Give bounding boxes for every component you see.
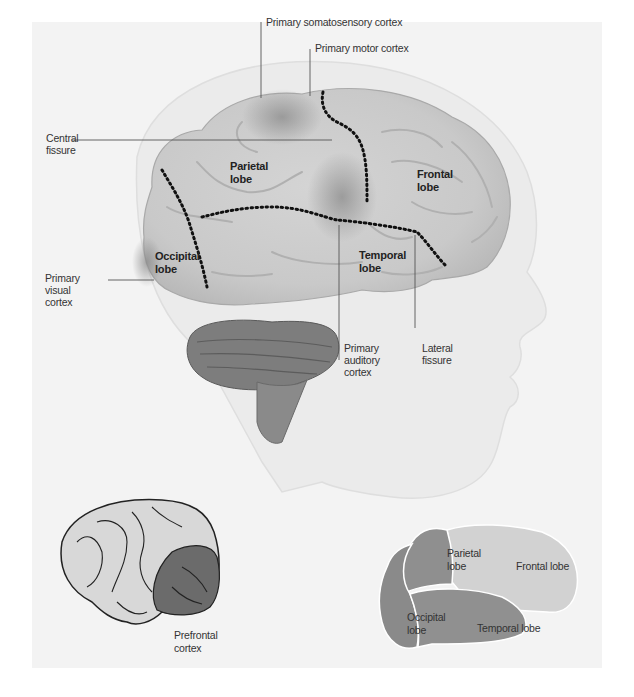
label-occipital-lobe: Occipital lobe [155, 250, 200, 276]
label-central-fissure: Central fissure [46, 132, 78, 156]
inset-parietal-lobe [400, 528, 453, 592]
label-parietal-lobe: Parietal lobe [230, 160, 268, 186]
inset-label-temporal: Temporal lobe [477, 622, 540, 635]
inset-label-occipital: Occipital lobe [407, 611, 445, 637]
label-primary-visual-cortex: Primary visual cortex [45, 272, 80, 308]
label-primary-somatosensory-cortex: Primary somatosensory cortex [266, 16, 402, 28]
label-prefrontal-cortex: Prefrontal cortex [174, 629, 218, 655]
label-frontal-lobe: Frontal lobe [417, 168, 453, 194]
prefrontal-inset-brain [61, 500, 219, 624]
inset-label-parietal: Parietal lobe [447, 547, 481, 573]
label-lateral-fissure: Lateral fissure [422, 342, 453, 366]
label-primary-motor-cortex: Primary motor cortex [315, 42, 408, 54]
inset-label-frontal: Frontal lobe [516, 560, 569, 573]
label-temporal-lobe: Temporal lobe [359, 249, 406, 275]
label-primary-auditory-cortex: Primary auditory cortex [344, 342, 380, 378]
figure-panel: Primary somatosensory cortex Primary mot… [32, 22, 602, 668]
